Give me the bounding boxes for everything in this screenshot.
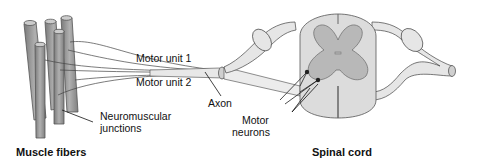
label-motor-neurons-2: neurons <box>232 126 270 138</box>
label-neuromuscular-2: junctions <box>100 122 141 134</box>
label-muscle-fibers: Muscle fibers <box>16 146 86 158</box>
label-motor-unit-1: Motor unit 1 <box>136 52 191 64</box>
label-spinal-cord: Spinal cord <box>312 146 372 158</box>
label-axon: Axon <box>208 97 232 109</box>
right-nerve-roots <box>372 22 456 100</box>
left-nerve-roots <box>224 22 296 73</box>
label-neuromuscular-1: Neuromuscular <box>100 110 171 122</box>
muscle-fibers <box>24 16 78 138</box>
label-motor-neurons-1: Motor <box>242 114 269 126</box>
label-motor-unit-2: Motor unit 2 <box>136 76 191 88</box>
